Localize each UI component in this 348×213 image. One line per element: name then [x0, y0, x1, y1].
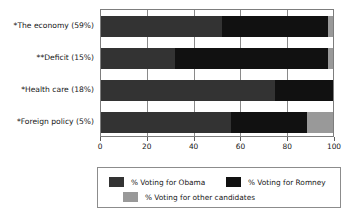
bar-segment	[231, 112, 308, 133]
plot-area	[100, 9, 334, 137]
x-axis-tick	[334, 137, 335, 141]
chart-legend: % Voting for Obama% Voting for Romney% V…	[97, 167, 341, 208]
bar-segment	[222, 16, 329, 37]
bar-row	[101, 112, 333, 133]
legend-label: % Voting for other candidates	[145, 193, 255, 202]
bar-segment	[101, 16, 222, 37]
legend-label: % Voting for Obama	[131, 178, 205, 187]
x-axis-tick	[147, 137, 148, 141]
bar-row	[101, 48, 333, 69]
bar-segment	[328, 16, 333, 37]
category-label: *The economy (59%)	[0, 21, 94, 30]
bar-segment	[101, 80, 275, 101]
legend-label: % Voting for Romney	[248, 178, 326, 187]
x-axis-tick	[287, 137, 288, 141]
x-axis-tick	[194, 137, 195, 141]
bar-segment	[101, 48, 175, 69]
category-label: *Foreign policy (5%)	[0, 117, 94, 126]
bar-segment	[175, 48, 328, 69]
x-axis-tick-label: 60	[236, 142, 245, 151]
category-label: *Health care (18%)	[0, 85, 94, 94]
bar-segment	[275, 80, 333, 101]
x-axis-tick-label: 20	[142, 142, 151, 151]
legend-item[interactable]: % Voting for Romney	[226, 176, 326, 188]
x-axis-tick	[100, 137, 101, 141]
bar-row	[101, 80, 333, 101]
legend-swatch-icon	[226, 177, 241, 187]
plot-inner	[101, 10, 333, 136]
bar-segment	[101, 112, 231, 133]
stacked-bar-chart: *The economy (59%)**Deficit (15%)*Health…	[0, 0, 348, 213]
bar-row	[101, 16, 333, 37]
category-axis-labels: *The economy (59%)**Deficit (15%)*Health…	[0, 9, 97, 137]
legend-item[interactable]: % Voting for Obama	[109, 176, 205, 188]
x-axis-tick-label: 40	[189, 142, 198, 151]
legend-swatch-icon	[123, 192, 138, 202]
x-axis-tick-label: 80	[282, 142, 291, 151]
x-axis-tick-label: 100	[327, 142, 341, 151]
legend-swatch-icon	[109, 177, 124, 187]
x-axis-tick	[240, 137, 241, 141]
x-axis-tick-label: 0	[98, 142, 103, 151]
bar-segment	[328, 48, 333, 69]
category-label: **Deficit (15%)	[0, 53, 94, 62]
legend-item[interactable]: % Voting for other candidates	[123, 191, 255, 203]
bar-segment	[307, 112, 333, 133]
